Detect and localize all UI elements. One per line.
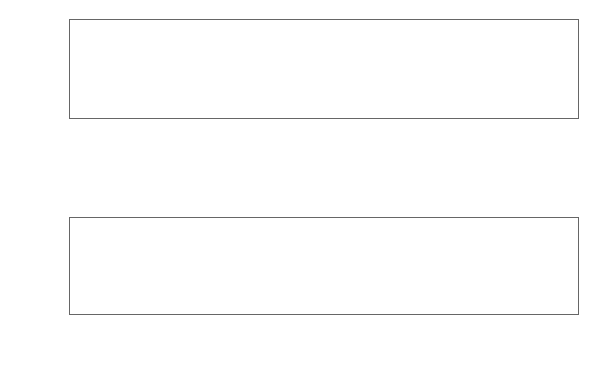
figure [0,0,607,378]
spectrum-panel [70,218,579,315]
plot-frame [70,20,579,119]
plot-frame [70,218,579,315]
time-series-panel [70,20,579,119]
